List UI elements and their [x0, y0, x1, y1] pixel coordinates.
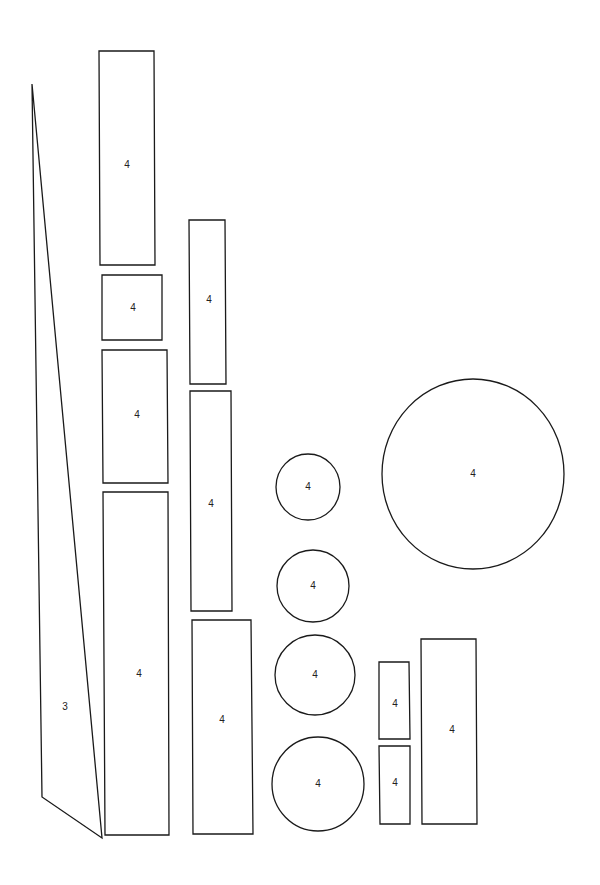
diagram-canvas: 3 4 4 4 4 4 4 4 4 4 4 4 — [0, 0, 600, 885]
shape-label: 4 — [130, 302, 136, 313]
rect-shape: 4 — [102, 275, 162, 340]
shape-label: 4 — [449, 724, 455, 735]
shape-label: 4 — [312, 669, 318, 680]
rect-shape: 4 — [102, 350, 168, 483]
rect-shape: 4 — [190, 391, 232, 611]
shape-label: 4 — [208, 498, 214, 509]
rect-shape: 4 — [421, 639, 477, 824]
shape-label: 4 — [315, 778, 321, 789]
circle-shape: 4 — [276, 454, 340, 520]
rect-shape: 4 — [99, 51, 155, 265]
rect-shape: 4 — [189, 220, 226, 384]
rect-shape: 4 — [103, 492, 169, 835]
rect-shape: 4 — [379, 746, 410, 824]
shape-label: 4 — [206, 294, 212, 305]
large-circle-shape: 4 — [382, 379, 564, 569]
rect-shape: 4 — [192, 620, 253, 834]
shape-label: 4 — [392, 777, 398, 788]
circle-shape: 4 — [272, 737, 364, 831]
shape-label: 4 — [136, 668, 142, 679]
shape-label: 4 — [134, 409, 140, 420]
shape-label: 4 — [310, 580, 316, 591]
shape-label: 4 — [470, 468, 476, 479]
shape-label: 4 — [219, 714, 225, 725]
circle-shape: 4 — [275, 635, 355, 715]
triangle-shape: 3 — [32, 84, 102, 838]
shape-label: 4 — [392, 698, 398, 709]
circle-shape: 4 — [277, 550, 349, 622]
shape-label: 3 — [62, 701, 68, 712]
shape-label: 4 — [305, 481, 311, 492]
shape-label: 4 — [124, 159, 130, 170]
rect-shape: 4 — [379, 662, 410, 739]
